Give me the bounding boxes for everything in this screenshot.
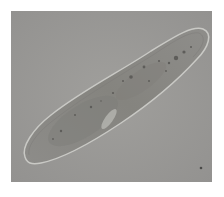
speck (200, 167, 203, 170)
caption (0, 186, 224, 197)
micrograph (11, 11, 212, 182)
paramecium-illustration (11, 11, 212, 182)
